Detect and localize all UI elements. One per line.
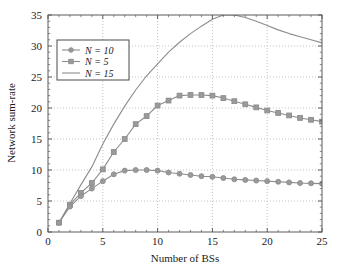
legend-label: N = 10 <box>84 45 113 56</box>
data-point-marker <box>155 168 160 173</box>
data-point-marker <box>166 98 171 103</box>
data-point-marker <box>144 114 149 119</box>
data-point-marker <box>221 176 226 181</box>
data-point-marker <box>177 93 182 98</box>
legend-sample-marker <box>69 48 74 53</box>
data-point-marker <box>67 204 72 209</box>
data-point-marker <box>210 174 215 179</box>
data-point-marker <box>287 113 292 118</box>
x-tick-label: 10 <box>152 235 164 247</box>
data-point-marker <box>309 117 314 122</box>
data-point-marker <box>188 93 193 98</box>
data-point-marker <box>232 99 237 104</box>
x-tick-label: 25 <box>317 235 329 247</box>
data-point-marker <box>199 174 204 179</box>
data-point-marker <box>56 220 61 225</box>
data-point-marker <box>309 181 314 186</box>
data-point-marker <box>276 179 281 184</box>
data-point-marker <box>166 170 171 175</box>
data-point-marker <box>133 168 138 173</box>
data-point-marker <box>100 167 105 172</box>
data-point-marker <box>177 171 182 176</box>
y-tick-label: 35 <box>31 9 43 21</box>
data-point-marker <box>265 108 270 113</box>
legend-label: N = 15 <box>84 68 113 79</box>
data-point-marker <box>232 177 237 182</box>
data-point-marker <box>188 172 193 177</box>
y-tick-label: 20 <box>31 102 43 114</box>
data-point-marker <box>89 181 94 186</box>
data-point-marker <box>243 177 248 182</box>
data-point-marker <box>265 179 270 184</box>
y-tick-label: 30 <box>31 40 43 52</box>
y-axis-title: Network sum-rate <box>5 83 17 163</box>
x-tick-label: 15 <box>207 235 219 247</box>
legend-sample-marker <box>69 59 73 63</box>
data-point-marker <box>276 111 281 116</box>
data-point-marker <box>199 93 204 98</box>
chart-figure: 051015202505101520253035 Number of BSs N… <box>0 0 342 279</box>
data-point-marker <box>298 181 303 186</box>
data-point-marker <box>221 96 226 101</box>
data-point-marker <box>89 186 94 191</box>
x-axis-title: Number of BSs <box>151 252 219 264</box>
data-point-marker <box>287 180 292 185</box>
data-point-marker <box>210 93 215 98</box>
data-point-marker <box>298 116 303 121</box>
data-point-marker <box>111 150 116 155</box>
data-point-marker <box>243 102 248 107</box>
y-tick-label: 0 <box>37 226 43 238</box>
y-tick-label: 25 <box>31 71 43 83</box>
data-point-marker <box>111 172 116 177</box>
x-tick-label: 20 <box>262 235 274 247</box>
data-point-marker <box>144 168 149 173</box>
data-point-marker <box>100 179 105 184</box>
data-point-marker <box>254 178 259 183</box>
data-point-marker <box>155 103 160 108</box>
data-point-marker <box>122 168 127 173</box>
data-point-marker <box>78 194 83 199</box>
data-point-marker <box>122 137 127 142</box>
y-tick-label: 15 <box>31 133 43 145</box>
chart-legend: N = 10N = 5N = 15 <box>57 40 129 80</box>
y-tick-label: 5 <box>37 195 43 207</box>
data-point-marker <box>133 122 138 127</box>
network-sum-rate-chart: 051015202505101520253035 Number of BSs N… <box>0 0 342 279</box>
y-tick-label: 10 <box>31 164 43 176</box>
data-point-marker <box>254 105 259 110</box>
legend-label: N = 5 <box>84 56 108 67</box>
x-tick-label: 0 <box>45 235 51 247</box>
legend-entries: N = 10N = 5N = 15 <box>62 45 113 79</box>
x-tick-label: 5 <box>100 235 106 247</box>
